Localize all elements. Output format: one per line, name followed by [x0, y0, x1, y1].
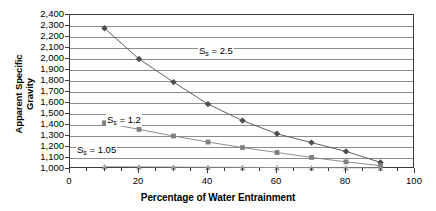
- x-axis-tick-minor: [328, 168, 329, 171]
- series-marker: [308, 139, 314, 145]
- x-axis-tick-minor: [293, 168, 294, 171]
- y-axis-tick-label: 1,900: [22, 64, 64, 74]
- series-line: [105, 123, 381, 166]
- y-axis-tick-label: 1,300: [22, 130, 64, 140]
- x-axis-tick-minor: [155, 168, 156, 171]
- x-axis-tick-minor: [362, 168, 363, 171]
- x-axis-tick-minor: [259, 168, 260, 171]
- x-axis-tick-minor: [311, 168, 312, 171]
- series-marker: [309, 155, 314, 160]
- x-axis-tick-major: [414, 168, 415, 173]
- series-marker: [274, 131, 280, 137]
- x-axis-tick-label: 20: [123, 175, 153, 186]
- series-layer: [70, 15, 415, 169]
- y-axis-tick-label: 2,100: [22, 42, 64, 52]
- x-axis-tick-label: 100: [399, 175, 429, 186]
- series-marker: [206, 140, 211, 145]
- y-axis-tick-label: 1,700: [22, 86, 64, 96]
- series-marker: [170, 79, 176, 85]
- x-axis-tick-minor: [242, 168, 243, 171]
- series-marker: [239, 117, 245, 123]
- x-axis-tick-minor: [104, 168, 105, 171]
- series-marker: [171, 134, 176, 139]
- x-axis-tick-major: [69, 168, 70, 173]
- y-axis-tick-label: 1,200: [22, 141, 64, 151]
- x-axis-tick-major: [345, 168, 346, 173]
- y-axis-tick-label: 1,000: [22, 163, 64, 173]
- series-marker: [240, 145, 245, 150]
- x-axis-tick-major: [138, 168, 139, 173]
- x-axis-title: Percentage of Water Entrainment: [0, 192, 436, 203]
- ss-105-label: Ss = 1.05: [76, 144, 117, 156]
- y-axis-tick-label: 1,600: [22, 97, 64, 107]
- x-axis-tick-label: 0: [54, 175, 84, 186]
- x-axis-tick-minor: [121, 168, 122, 171]
- series-marker: [137, 127, 142, 132]
- x-axis-tick-major: [276, 168, 277, 173]
- y-axis-tick-label: 2,200: [22, 31, 64, 41]
- x-axis-tick-minor: [397, 168, 398, 171]
- x-axis-tick-label: 80: [330, 175, 360, 186]
- y-axis-tick-label: 1,400: [22, 119, 64, 129]
- y-axis-tick-label: 1,100: [22, 152, 64, 162]
- plot-area: Ss = 2.5Ss = 1.2Ss = 1.05: [69, 14, 414, 168]
- series-marker: [343, 148, 349, 154]
- x-axis-tick-major: [207, 168, 208, 173]
- x-axis-tick-minor: [224, 168, 225, 171]
- y-axis-tick-label: 1,500: [22, 108, 64, 118]
- x-axis-tick-minor: [380, 168, 381, 171]
- y-axis-tick-label: 2,000: [22, 53, 64, 63]
- x-axis-tick-minor: [173, 168, 174, 171]
- x-axis-tick-minor: [86, 168, 87, 171]
- x-axis-tick-label: 40: [192, 175, 222, 186]
- series-marker: [205, 101, 211, 107]
- series-marker: [275, 150, 280, 155]
- series-marker: [344, 159, 349, 164]
- y-axis-tick-label: 1,800: [22, 75, 64, 85]
- y-axis-tick-label: 2,300: [22, 20, 64, 30]
- chart-figure: Apparent Specific Gravity 1,0001,1001,20…: [0, 0, 436, 211]
- y-axis-tick-label: 2,400: [22, 9, 64, 19]
- x-axis-tick-minor: [190, 168, 191, 171]
- ss-12-label: Ss = 1.2: [106, 114, 142, 126]
- x-axis-tick-label: 60: [261, 175, 291, 186]
- ss-25-label: Ss = 2.5: [198, 45, 234, 57]
- series-line: [105, 28, 381, 162]
